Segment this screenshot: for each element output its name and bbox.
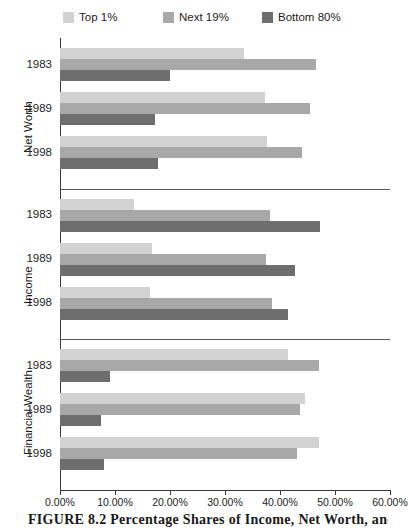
bar xyxy=(60,221,320,232)
legend-item-top-1-percent: Top 1% xyxy=(63,12,117,24)
chart-plot-area: 0.00%10.00%20.00%30.00%40.00%50.00%60.00… xyxy=(60,38,390,490)
figure-caption: FIGURE 8.2 Percentage Shares of Income, … xyxy=(28,512,388,528)
x-tick-label: 20.00% xyxy=(142,497,198,508)
legend-swatch-next-19-percent xyxy=(163,12,174,23)
bar xyxy=(60,265,295,276)
legend-swatch-top-1-percent xyxy=(63,12,74,23)
bar xyxy=(60,371,110,382)
chart-legend: Top 1% Next 19% Bottom 80% xyxy=(0,10,399,32)
x-tick-label: 60.00% xyxy=(362,497,413,508)
legend-label-bottom-80-percent: Bottom 80% xyxy=(278,12,341,24)
x-tick-label: 30.00% xyxy=(197,497,253,508)
x-tick-mark xyxy=(280,490,281,495)
year-label-1983: 1983 xyxy=(0,59,52,71)
legend-swatch-bottom-80-percent xyxy=(262,12,273,23)
x-tick-mark xyxy=(115,490,116,495)
panel-separator xyxy=(60,339,390,340)
bar xyxy=(60,298,272,309)
x-tick-mark xyxy=(60,490,61,495)
x-tick-mark xyxy=(225,490,226,495)
section-label-financial-wealth: Financial Wealth xyxy=(22,370,34,455)
bar xyxy=(60,404,300,415)
year-label-1983: 1983 xyxy=(0,209,52,221)
bar xyxy=(60,254,266,265)
year-label-1989: 1989 xyxy=(0,253,52,265)
bar xyxy=(60,360,319,371)
x-tick-mark xyxy=(335,490,336,495)
bar xyxy=(60,70,170,81)
panel-separator xyxy=(60,189,390,190)
bar xyxy=(60,243,152,254)
bar xyxy=(60,393,305,404)
bar xyxy=(60,210,270,221)
x-tick-label: 10.00% xyxy=(87,497,143,508)
legend-label-next-19-percent: Next 19% xyxy=(179,12,229,24)
bar xyxy=(60,309,288,320)
section-label-income: Income xyxy=(22,266,34,304)
bar xyxy=(60,59,316,70)
bar xyxy=(60,287,150,298)
bar xyxy=(60,158,158,169)
legend-item-next-19-percent: Next 19% xyxy=(163,12,229,24)
bar xyxy=(60,147,302,158)
bar xyxy=(60,437,319,448)
x-tick-label: 50.00% xyxy=(307,497,363,508)
bar xyxy=(60,136,267,147)
bar xyxy=(60,448,297,459)
bar xyxy=(60,459,104,470)
section-label-net-worth: Net Worth xyxy=(22,102,34,154)
x-tick-mark xyxy=(170,490,171,495)
bar xyxy=(60,48,244,59)
x-tick-mark xyxy=(390,490,391,495)
bar xyxy=(60,349,288,360)
bar xyxy=(60,199,134,210)
bar xyxy=(60,415,101,426)
x-tick-label: 40.00% xyxy=(252,497,308,508)
legend-label-top-1-percent: Top 1% xyxy=(79,12,117,24)
legend-item-bottom-80-percent: Bottom 80% xyxy=(262,12,341,24)
bar xyxy=(60,92,265,103)
bar xyxy=(60,103,310,114)
x-tick-label: 0.00% xyxy=(32,497,88,508)
bar xyxy=(60,114,155,125)
